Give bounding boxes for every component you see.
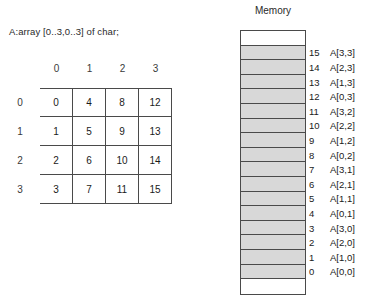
matrix-cell: 12 — [139, 88, 172, 117]
memory-cell-index: 6 — [309, 178, 325, 189]
matrix-cell: 13 — [139, 117, 172, 146]
memory-cell-index: 7 — [309, 164, 325, 175]
matrix-cell: 0 — [40, 88, 73, 117]
memory-cell: 5A[1,1] — [241, 192, 305, 207]
memory-cell-column: 15A[3,3]14A[2,3]13A[1,3]12A[0,3]11A[3,2]… — [240, 30, 306, 295]
memory-cell-annotation: 6A[2,1] — [309, 178, 355, 189]
matrix-column-header: 3 — [139, 63, 172, 74]
memory-cell-index: 9 — [309, 134, 325, 145]
memory-cell-annotation: 10A[2,2] — [309, 120, 355, 131]
memory-cell-annotation: 0A[0,0] — [309, 266, 355, 277]
memory-cell-annotation: 11A[3,2] — [309, 105, 355, 116]
memory-cell-label: A[0,1] — [325, 207, 355, 218]
memory-cell-annotation: 15A[3,3] — [309, 47, 355, 58]
memory-cell-annotation: 3A[3,0] — [309, 222, 355, 233]
memory-cell-index: 13 — [309, 76, 325, 87]
memory-cell: 3A[3,0] — [241, 221, 305, 236]
matrix-row: 115913 — [0, 117, 172, 146]
memory-cell-annotation: 14A[2,3] — [309, 61, 355, 72]
matrix-column-header: 1 — [73, 63, 106, 74]
memory-cell-index: 12 — [309, 91, 325, 102]
memory-cell-annotation: 5A[1,1] — [309, 193, 355, 204]
memory-cell-annotation: 4A[0,1] — [309, 207, 355, 218]
matrix-cell: 8 — [106, 88, 139, 117]
matrix-row: 004812 — [0, 88, 172, 117]
memory-cell: 14A[2,3] — [241, 60, 305, 75]
memory-cell-index: 0 — [309, 266, 325, 277]
memory-cell: 2A[2,0] — [241, 235, 305, 250]
matrix-cell: 6 — [73, 146, 106, 175]
matrix-cell: 1 — [40, 117, 73, 146]
memory-cell-index: 2 — [309, 237, 325, 248]
memory-cell-annotation: 8A[0,2] — [309, 149, 355, 160]
memory-cell: 0A[0,0] — [241, 265, 305, 280]
matrix-column-header: 0 — [40, 63, 73, 74]
memory-cell-empty — [241, 31, 305, 46]
memory-cell: 11A[3,2] — [241, 104, 305, 119]
memory-cell-annotation: 9A[1,2] — [309, 134, 355, 145]
matrix-column-headers: 0123 — [40, 63, 172, 74]
matrix-cell: 2 — [40, 146, 73, 175]
memory-cell: 10A[2,2] — [241, 119, 305, 134]
memory-cell-label: A[1,2] — [325, 134, 355, 145]
memory-cell: 9A[1,2] — [241, 133, 305, 148]
matrix-cell: 9 — [106, 117, 139, 146]
matrix-cell: 15 — [139, 175, 172, 204]
memory-cell: 6A[2,1] — [241, 177, 305, 192]
memory-cell-index: 15 — [309, 47, 325, 58]
memory-cell: 13A[1,3] — [241, 75, 305, 90]
memory-cell: 15A[3,3] — [241, 46, 305, 61]
memory-cell-label: A[3,1] — [325, 164, 355, 175]
matrix-cell: 3 — [40, 175, 73, 204]
memory-cell: 1A[1,0] — [241, 250, 305, 265]
memory-cell-index: 11 — [309, 105, 325, 116]
matrix-cell: 4 — [73, 88, 106, 117]
memory-cell-label: A[1,3] — [325, 76, 355, 87]
memory-cell-index: 3 — [309, 222, 325, 233]
matrix-row-header: 1 — [0, 126, 40, 137]
memory-cell-empty — [241, 279, 305, 294]
memory-cell-index: 4 — [309, 207, 325, 218]
memory-cell: 12A[0,3] — [241, 89, 305, 104]
matrix-cell: 11 — [106, 175, 139, 204]
memory-cell-label: A[1,1] — [325, 193, 355, 204]
matrix-row-header: 3 — [0, 184, 40, 195]
memory-cell-label: A[3,2] — [325, 105, 355, 116]
memory-cell-annotation: 2A[2,0] — [309, 237, 355, 248]
memory-cell-index: 14 — [309, 61, 325, 72]
matrix-cell: 7 — [73, 175, 106, 204]
memory-title: Memory — [240, 5, 306, 16]
memory-cell-annotation: 12A[0,3] — [309, 91, 355, 102]
matrix-cell: 14 — [139, 146, 172, 175]
matrix-column-header: 2 — [106, 63, 139, 74]
matrix-row-header: 2 — [0, 155, 40, 166]
memory-cell-label: A[0,3] — [325, 91, 355, 102]
memory-cell-annotation: 13A[1,3] — [309, 76, 355, 87]
matrix-grid: 00481211591322610143371115 — [0, 88, 172, 204]
memory-cell-label: A[0,0] — [325, 266, 355, 277]
memory-cell-label: A[2,0] — [325, 237, 355, 248]
memory-cell-index: 8 — [309, 149, 325, 160]
matrix-row-header: 0 — [0, 97, 40, 108]
memory-cell: 8A[0,2] — [241, 148, 305, 163]
matrix-row: 2261014 — [0, 146, 172, 175]
memory-cell-label: A[2,2] — [325, 120, 355, 131]
memory-cell-label: A[0,2] — [325, 149, 355, 160]
matrix-cell: 10 — [106, 146, 139, 175]
memory-cell: 7A[3,1] — [241, 162, 305, 177]
matrix-cell: 5 — [73, 117, 106, 146]
memory-cell-index: 5 — [309, 193, 325, 204]
memory-cell-annotation: 7A[3,1] — [309, 164, 355, 175]
memory-cell-label: A[3,0] — [325, 222, 355, 233]
memory-cell-label: A[3,3] — [325, 47, 355, 58]
memory-cell: 4A[0,1] — [241, 206, 305, 221]
memory-cell-index: 10 — [309, 120, 325, 131]
memory-cell-label: A[2,3] — [325, 61, 355, 72]
memory-cell-annotation: 1A[1,0] — [309, 251, 355, 262]
array-declaration: A:array [0..3,0..3] of char; — [9, 26, 119, 37]
memory-cell-label: A[1,0] — [325, 251, 355, 262]
memory-cell-label: A[2,1] — [325, 178, 355, 189]
memory-cell-index: 1 — [309, 251, 325, 262]
matrix-row: 3371115 — [0, 175, 172, 204]
